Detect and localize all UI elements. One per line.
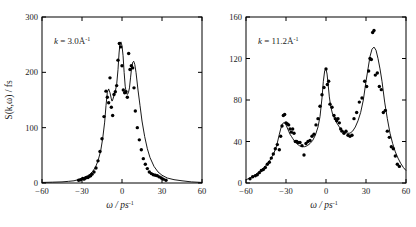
x-tick-label: −30: [75, 186, 88, 196]
x-tick-label: 60: [402, 186, 411, 196]
data-point: [316, 117, 319, 120]
annotation-exponent: -1: [85, 36, 90, 42]
plot-right-svg: −60−300306004080120160ω / ps-1k = 11.2Å-…: [208, 0, 416, 227]
x-tick-label: 60: [198, 186, 207, 196]
data-point: [322, 86, 325, 89]
plot-left-svg: −60−30030600100200300ω / ps-1S(k,ω) / fs…: [0, 0, 208, 227]
data-point: [352, 117, 355, 120]
data-point: [363, 80, 366, 83]
data-point: [386, 129, 389, 132]
x-tick-label: 30: [362, 186, 371, 196]
data-point: [144, 162, 147, 165]
data-point: [279, 135, 282, 138]
data-point: [276, 143, 279, 146]
data-point: [378, 85, 381, 88]
data-point: [272, 152, 275, 155]
y-tick-label: 0: [34, 178, 38, 188]
data-point: [292, 132, 295, 135]
data-point: [278, 148, 281, 151]
data-point: [248, 177, 251, 180]
data-point: [384, 109, 387, 112]
data-point: [164, 179, 167, 182]
y-tick-label: 160: [229, 12, 242, 22]
data-point: [370, 58, 373, 61]
annotation-exponent: -1: [294, 36, 299, 42]
data-point: [280, 124, 283, 127]
data-point: [355, 111, 358, 114]
data-point: [114, 90, 117, 93]
data-point: [318, 105, 321, 108]
data-point: [338, 121, 341, 124]
x-axis-title-text: ω / ps-1: [106, 200, 134, 211]
x-axis-exponent: -1: [333, 200, 338, 206]
x-axis-title-text: ω / ps-1: [310, 200, 338, 211]
data-point: [392, 147, 395, 150]
y-tick-label: 40: [234, 137, 243, 147]
data-point: [118, 42, 121, 45]
data-points-group: [248, 29, 401, 181]
data-point: [326, 83, 329, 86]
y-tick-label: 0: [238, 178, 242, 188]
data-point: [268, 161, 271, 164]
data-point: [124, 90, 127, 93]
data-point: [120, 64, 123, 67]
data-point: [336, 117, 339, 120]
data-point: [274, 147, 277, 150]
data-point: [96, 159, 99, 162]
panel-annotation: k = 3.0Å-1: [54, 36, 90, 47]
data-point: [398, 165, 401, 168]
data-point: [264, 166, 267, 169]
data-point: [119, 45, 122, 48]
data-point: [320, 93, 323, 96]
y-tick-label: 300: [25, 12, 38, 22]
data-point: [140, 148, 143, 151]
data-point: [302, 153, 305, 156]
data-point: [107, 101, 110, 104]
data-point: [283, 113, 286, 116]
data-point: [146, 167, 149, 170]
chart-panel-left: −60−30030600100200300ω / ps-1S(k,ω) / fs…: [0, 0, 208, 227]
x-tick-label: 30: [158, 186, 167, 196]
data-point: [131, 66, 134, 69]
y-tick-label: 100: [25, 123, 38, 133]
x-axis-title: ω / ps-1: [106, 200, 134, 211]
data-point: [376, 71, 379, 74]
data-point: [270, 156, 273, 159]
data-point: [344, 129, 347, 132]
y-tick-label: 80: [234, 95, 243, 105]
omega-symbol: ω / ps: [106, 200, 129, 210]
y-tick-label: 120: [229, 54, 242, 64]
data-point: [116, 58, 119, 61]
data-point: [372, 29, 375, 32]
data-point: [138, 138, 141, 141]
omega-symbol: ω / ps: [310, 200, 333, 210]
annotation-body: = 11.2Å: [262, 36, 294, 46]
annotation-body: = 3.0Å: [58, 36, 86, 46]
data-point: [394, 154, 397, 157]
data-point: [298, 141, 301, 144]
data-point: [350, 134, 353, 137]
data-point: [330, 106, 333, 109]
data-point: [92, 170, 95, 173]
data-point: [110, 105, 113, 108]
data-point: [367, 69, 370, 72]
data-point: [106, 96, 109, 99]
x-tick-label: 0: [324, 186, 328, 196]
data-points-group: [77, 42, 168, 182]
data-point: [104, 89, 107, 92]
data-point: [314, 123, 317, 126]
data-point: [126, 96, 129, 99]
data-point: [388, 136, 391, 139]
data-point: [327, 80, 330, 83]
data-point: [115, 84, 118, 87]
data-point: [380, 88, 383, 91]
data-point: [100, 137, 103, 140]
data-point: [142, 157, 145, 160]
x-tick-label: 0: [120, 186, 124, 196]
data-point: [312, 133, 315, 136]
figure-root: −60−30030600100200300ω / ps-1S(k,ω) / fs…: [0, 0, 416, 227]
data-point: [136, 126, 139, 129]
data-point: [134, 109, 137, 112]
data-point: [324, 67, 327, 70]
x-tick-label: −30: [279, 186, 292, 196]
